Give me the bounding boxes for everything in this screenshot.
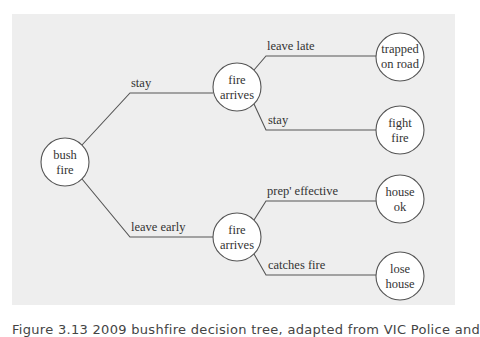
node-label-line1: fight: [388, 116, 412, 130]
node-fire-arrives-stay: fire arrives: [213, 63, 261, 111]
node-label-line2: fire: [391, 131, 409, 145]
node-fight-fire: fight fire: [376, 106, 424, 154]
node-label-line2: arrives: [220, 238, 254, 252]
node-label-line2: ok: [394, 200, 407, 214]
node-trapped-on-road: trapped on road: [376, 33, 424, 81]
node-label-line1: fire: [228, 223, 246, 237]
edge-leave-late: [254, 56, 376, 70]
edge-label-catches-fire: catches fire: [268, 258, 326, 272]
edge-label-leave-late: leave late: [267, 39, 315, 53]
edge-prep-effective: [254, 201, 376, 220]
node-label-line1: fire: [228, 73, 246, 87]
node-label-line1: house: [385, 185, 415, 199]
edge-label-stay: stay: [131, 76, 152, 90]
node-bush-fire: bush fire: [41, 138, 89, 186]
node-label-line2: fire: [56, 163, 74, 177]
node-label-line2: house: [385, 277, 415, 291]
node-label-line1: lose: [390, 262, 411, 276]
edge-stay: [82, 93, 213, 145]
figure-caption: Figure 3.13 2009 bushfire decision tree,…: [12, 322, 480, 337]
node-label-line1: bush: [53, 148, 77, 162]
node-house-ok: house ok: [376, 175, 424, 223]
node-label-line1: trapped: [381, 42, 419, 56]
node-label-line2: on road: [381, 57, 420, 71]
edge-label-stay-fight: stay: [268, 113, 289, 127]
edge-label-prep-effective: prep' effective: [267, 184, 339, 198]
node-label-line2: arrives: [220, 88, 254, 102]
node-lose-house: lose house: [376, 252, 424, 300]
edge-label-leave-early: leave early: [131, 220, 186, 234]
node-fire-arrives-leave: fire arrives: [213, 213, 261, 261]
